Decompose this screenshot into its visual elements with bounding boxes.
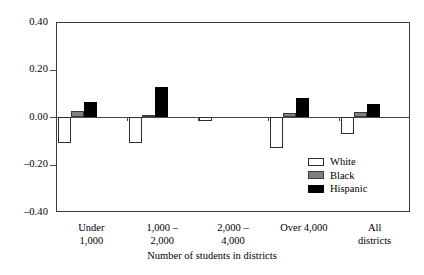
y-axis-tick-label: 0.20 [4, 64, 48, 74]
bar-hispanic-group-5 [367, 104, 380, 117]
bar-black-group-1 [71, 111, 84, 117]
legend-label-black: Black [330, 169, 355, 183]
legend-swatch-black-icon [308, 171, 324, 179]
bar-white-group-3 [199, 117, 212, 121]
legend-label-white: White [330, 155, 356, 169]
x-axis-title: Number of students in districts [0, 250, 424, 261]
bar-white-group-5 [341, 117, 354, 134]
legend-swatch-hispanic-icon [308, 185, 324, 193]
legend-swatch-white-icon [308, 158, 324, 166]
y-axis-tick-label: –0.40 [4, 207, 48, 217]
bar-black-group-4 [283, 113, 296, 117]
bar-hispanic-group-2 [155, 87, 168, 117]
bar-hispanic-group-1 [84, 102, 97, 117]
legend-item-white: White [308, 155, 367, 169]
legend: White Black Hispanic [308, 155, 367, 196]
legend-label-hispanic: Hispanic [330, 182, 367, 196]
y-axis-tick-label: 0.40 [4, 17, 48, 27]
bar-white-group-4 [270, 117, 283, 148]
legend-item-hispanic: Hispanic [308, 182, 367, 196]
bar-white-group-1 [58, 117, 71, 143]
bar-black-group-2 [142, 115, 155, 117]
bar-black-group-5 [354, 112, 367, 117]
bar-white-group-2 [129, 117, 142, 143]
y-axis-tick-label: –0.20 [4, 159, 48, 169]
bar-chart-figure: 0.400.200.00–0.20–0.40 Under 1,0001,000 … [0, 0, 424, 275]
zero-baseline [56, 117, 410, 118]
y-axis-tick-label: 0.00 [4, 112, 48, 122]
bar-hispanic-group-4 [296, 98, 309, 117]
legend-item-black: Black [308, 169, 367, 183]
x-axis-category-label: All districts [327, 222, 422, 247]
